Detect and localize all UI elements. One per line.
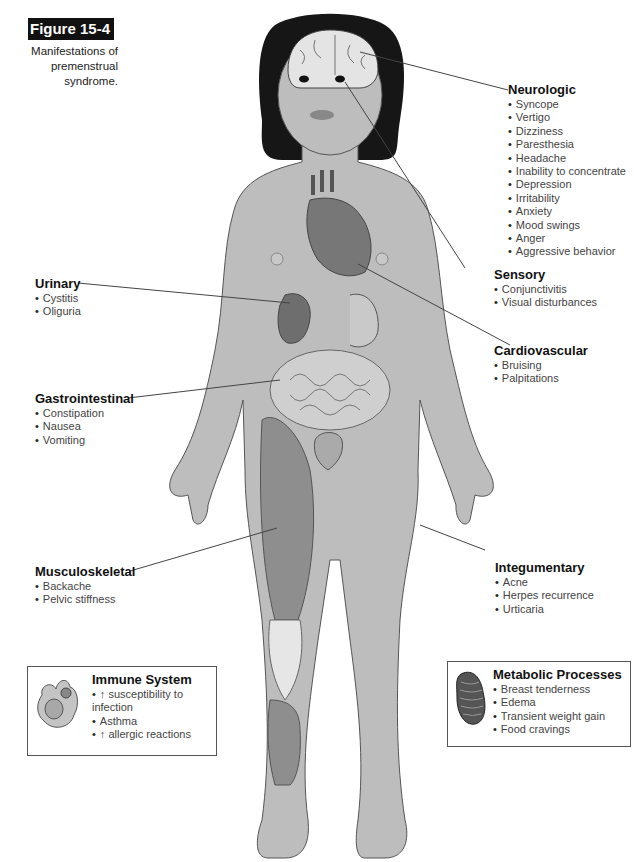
list-item: ↑ allergic reactions [92,728,202,741]
list-item: Edema [493,696,622,709]
intestines [270,350,390,430]
immune-system-box: Immune System ↑ susceptibility to infect… [27,666,217,756]
list-item: Cystitis [35,292,81,305]
mitochondrion-icon [453,668,489,728]
group-title: Gastrointestinal [35,391,134,407]
list-item: Vertigo [508,111,626,124]
group-title: Musculoskeletal [35,564,135,580]
list-item: Pelvic stiffness [35,593,135,606]
list-item: Aggressive behavior [508,245,626,258]
list-item: Transient weight gain [493,710,622,723]
right-eye [335,76,345,83]
list-item: Conjunctivitis [494,283,597,296]
group-metabolic: Metabolic Processes Breast tenderness Ed… [493,667,622,737]
list-item: Dizziness [508,125,626,138]
list-item: Depression [508,178,626,191]
list-item: Constipation [35,407,134,420]
group-title: Cardiovascular [494,343,588,359]
group-sensory: Sensory Conjunctivitis Visual disturbanc… [494,267,597,310]
list-item: Acne [495,576,594,589]
group-title: Integumentary [495,560,594,576]
group-immune: Immune System ↑ susceptibility to infect… [92,672,202,742]
group-integumentary: Integumentary Acne Herpes recurrence Urt… [495,560,594,616]
group-title: Urinary [35,276,81,292]
list-item: Vomiting [35,434,134,447]
list-item: Syncope [508,98,626,111]
list-item: Irritability [508,192,626,205]
list-item: Visual disturbances [494,296,597,309]
group-gastrointestinal: Gastrointestinal Constipation Nausea Vom… [35,391,134,447]
group-musculoskeletal: Musculoskeletal Backache Pelvic stiffnes… [35,564,135,607]
list-item: Urticaria [495,603,594,616]
list-item: Anxiety [508,205,626,218]
list-item: Breast tenderness [493,683,622,696]
list-item: Inability to concentrate [508,165,626,178]
group-cardiovascular: Cardiovascular Bruising Palpitations [494,343,588,386]
group-title: Immune System [92,672,202,688]
immune-cell-icon [34,675,84,735]
group-urinary: Urinary Cystitis Oliguria [35,276,81,319]
list-item: ↑ susceptibility to infection [92,688,202,715]
list-item: Bruising [494,359,588,372]
calf-muscles [268,700,300,785]
group-title: Sensory [494,267,597,283]
left-eye [299,76,309,83]
list-item: Paresthesia [508,138,626,151]
list-item: Nausea [35,420,134,433]
list-item: Headache [508,152,626,165]
group-neurologic: Neurologic Syncope Vertigo Dizziness Par… [508,82,626,259]
list-item: Food cravings [493,723,622,736]
list-item: Mood swings [508,219,626,232]
list-item: Palpitations [494,372,588,385]
list-item: Backache [35,580,135,593]
group-title: Neurologic [508,82,626,98]
list-item: Oliguria [35,305,81,318]
list-item: Herpes recurrence [495,589,594,602]
list-item: Anger [508,232,626,245]
group-title: Metabolic Processes [493,667,622,683]
lips [310,110,334,120]
list-item: Asthma [92,715,202,728]
metabolic-processes-box: Metabolic Processes Breast tenderness Ed… [447,661,631,747]
